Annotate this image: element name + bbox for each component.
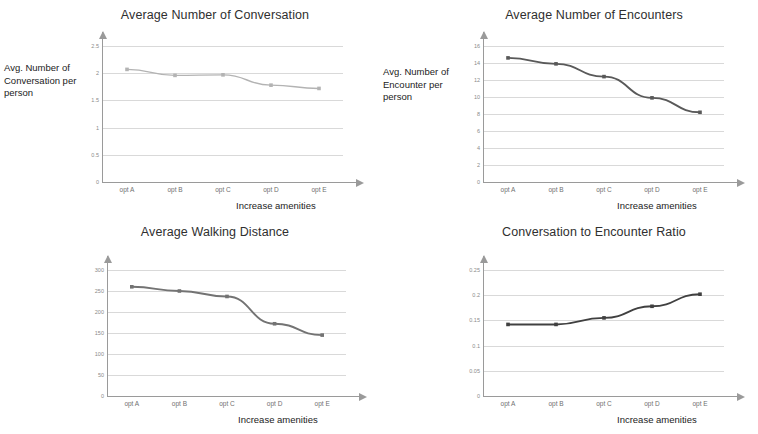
x-axis-line <box>483 182 743 183</box>
y-tick-label: 250 <box>95 288 104 294</box>
y-axis-line <box>107 256 108 396</box>
y-tick-label: 2.5 <box>91 43 99 49</box>
y-tick-label: 0.25 <box>469 267 480 273</box>
y-tick-label: 0.2 <box>472 292 480 298</box>
y-tick-label: 8 <box>477 111 480 117</box>
y-tick-label: 10 <box>474 94 480 100</box>
x-tick-label: opt C <box>215 186 231 193</box>
y-tick-label: 2 <box>477 162 480 168</box>
data-point-marker <box>650 96 654 100</box>
x-tick-label: opt C <box>219 400 235 407</box>
x-tick-label: opt D <box>267 400 283 407</box>
x-tick-label: opt E <box>311 186 326 193</box>
x-tick-label: opt C <box>596 400 612 407</box>
y-tick-label: 300 <box>95 267 104 273</box>
y-tick-label: 0.15 <box>469 317 480 323</box>
data-point-marker <box>602 316 606 320</box>
data-point-marker <box>320 333 324 337</box>
plot-area: 00.050.10.150.20.25opt Aopt Bopt Copt Do… <box>484 270 724 396</box>
y-tick-label: 12 <box>474 77 480 83</box>
plot-area: 050100150200250300opt Aopt Bopt Copt Dop… <box>108 270 346 396</box>
x-axis-title: Increase amenities <box>617 200 697 211</box>
chart-panel-encounters: Average Number of Encounters Avg. Number… <box>379 0 758 217</box>
x-axis-line <box>107 396 365 397</box>
y-tick-label: 0 <box>477 393 480 399</box>
y-tick-label: 100 <box>95 351 104 357</box>
data-point-marker <box>269 83 273 87</box>
x-axis-line <box>483 396 743 397</box>
y-axis-line <box>483 256 484 396</box>
series-line <box>103 46 343 182</box>
y-tick-label: 1 <box>96 125 99 131</box>
series-line <box>108 270 346 396</box>
x-tick-label: opt B <box>167 186 182 193</box>
x-tick-label: opt A <box>124 400 139 407</box>
y-tick-label: 0.1 <box>472 343 480 349</box>
y-tick-label: 6 <box>477 128 480 134</box>
x-axis-line <box>102 182 362 183</box>
data-point-marker <box>506 323 510 327</box>
y-tick-label: 150 <box>95 330 104 336</box>
chart-title: Average Number of Conversation <box>60 8 370 22</box>
series-line <box>484 46 724 182</box>
x-tick-label: opt B <box>548 400 563 407</box>
y-axis-label: Avg. Number of Conversation per person <box>4 62 82 100</box>
plot-area: 0246810121416opt Aopt Bopt Copt Dopt E <box>484 46 724 182</box>
x-axis-title: Increase amenities <box>238 414 318 425</box>
data-point-marker <box>221 73 225 77</box>
y-tick-label: 50 <box>98 372 104 378</box>
chart-title: Average Walking Distance <box>60 225 370 239</box>
data-point-marker <box>178 289 182 293</box>
x-tick-label: opt E <box>315 400 330 407</box>
x-tick-label: opt E <box>692 400 707 407</box>
data-point-marker <box>554 62 558 66</box>
x-tick-label: opt D <box>644 186 660 193</box>
y-axis-line <box>483 32 484 182</box>
y-tick-label: 4 <box>477 145 480 151</box>
data-point-marker <box>225 295 229 299</box>
data-point-marker <box>125 68 129 72</box>
x-tick-label: opt B <box>172 400 187 407</box>
y-axis-line <box>102 32 103 182</box>
x-tick-label: opt C <box>596 186 612 193</box>
y-tick-label: 0 <box>477 179 480 185</box>
plot-inner: 00.511.522.5opt Aopt Bopt Copt Dopt E <box>103 46 343 182</box>
data-point-marker <box>698 292 702 296</box>
x-tick-label: opt A <box>501 400 516 407</box>
chart-title: Conversation to Encounter Ratio <box>439 225 749 239</box>
plot-inner: 050100150200250300opt Aopt Bopt Copt Dop… <box>108 270 346 396</box>
data-point-marker <box>602 75 606 79</box>
data-point-marker <box>273 322 277 326</box>
y-tick-label: 1.5 <box>91 97 99 103</box>
x-axis-title: Increase amenities <box>617 414 697 425</box>
y-tick-label: 0 <box>101 393 104 399</box>
data-point-marker <box>173 74 177 78</box>
data-point-marker <box>506 56 510 60</box>
plot-inner: 00.050.10.150.20.25opt Aopt Bopt Copt Do… <box>484 270 724 396</box>
chart-title: Average Number of Encounters <box>439 8 749 22</box>
data-point-marker <box>698 111 702 115</box>
x-tick-label: opt A <box>120 186 135 193</box>
y-axis-label: Avg. Number of Encounter per person <box>383 66 465 104</box>
y-tick-label: 16 <box>474 43 480 49</box>
x-tick-label: opt D <box>644 400 660 407</box>
y-tick-label: 0.5 <box>91 152 99 158</box>
plot-inner: 0246810121416opt Aopt Bopt Copt Dopt E <box>484 46 724 182</box>
x-tick-label: opt E <box>692 186 707 193</box>
x-tick-label: opt B <box>548 186 563 193</box>
chart-panel-ratio: Conversation to Encounter Ratio Ratio pe… <box>379 217 758 434</box>
y-tick-label: 0 <box>96 179 99 185</box>
chart-panel-conversation: Average Number of Conversation Avg. Numb… <box>0 0 379 217</box>
plot-area: 00.511.522.5opt Aopt Bopt Copt Dopt E <box>103 46 343 182</box>
chart-grid: Average Number of Conversation Avg. Numb… <box>0 0 758 434</box>
data-point-marker <box>130 285 134 289</box>
y-tick-label: 200 <box>95 309 104 315</box>
data-point-marker <box>554 323 558 327</box>
chart-panel-walking-distance: Average Walking Distance Avg. Walking Di… <box>0 217 379 434</box>
data-point-marker <box>317 87 321 91</box>
y-tick-label: 14 <box>474 60 480 66</box>
series-line <box>484 270 724 396</box>
y-tick-label: 2 <box>96 70 99 76</box>
y-tick-label: 0.05 <box>469 368 480 374</box>
x-tick-label: opt A <box>501 186 516 193</box>
